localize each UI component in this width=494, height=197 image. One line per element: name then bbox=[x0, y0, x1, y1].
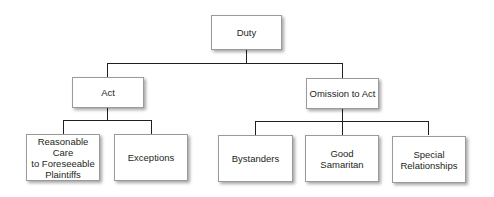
node-special-relationships: Special Relationships bbox=[392, 136, 466, 183]
duty-tree-diagram: Duty Act Omission to Act Reasonable Care… bbox=[0, 0, 494, 197]
connector-exceptions-drop bbox=[151, 120, 152, 134]
connector-duty-stem bbox=[246, 50, 247, 64]
node-bystanders: Bystanders bbox=[218, 135, 293, 182]
node-duty: Duty bbox=[211, 15, 282, 50]
connector-omission-children-bar bbox=[255, 121, 429, 122]
connector-level1-bar bbox=[107, 63, 343, 64]
node-omission-to-act: Omission to Act bbox=[306, 78, 379, 109]
connector-act-drop bbox=[107, 63, 108, 77]
node-good-samaritan: Good Samaritan bbox=[305, 135, 379, 182]
connector-reasonable-care-drop bbox=[63, 120, 64, 134]
node-act: Act bbox=[72, 77, 144, 108]
connector-bystanders-drop bbox=[255, 121, 256, 135]
connector-omission-stem bbox=[342, 109, 343, 135]
node-exceptions: Exceptions bbox=[114, 134, 188, 181]
connector-act-stem bbox=[107, 107, 108, 121]
connector-act-children-bar bbox=[63, 120, 152, 121]
connector-special-relationships-drop bbox=[428, 121, 429, 135]
connector-omission-drop bbox=[342, 63, 343, 78]
node-reasonable-care: Reasonable Care to Foreseeable Plaintiff… bbox=[26, 134, 100, 181]
